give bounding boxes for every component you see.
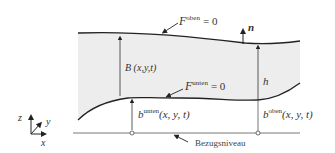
- axis-x-label: x: [40, 137, 46, 148]
- axis-y-label: y: [45, 116, 51, 127]
- label-h: h: [263, 75, 269, 87]
- coordinate-axes-icon: z y x: [17, 112, 51, 148]
- label-reference-level: Bezugsniveau: [195, 138, 246, 148]
- reference-leader: [176, 136, 188, 142]
- origin-point-left: [130, 131, 134, 135]
- label-normal-n: n: [248, 21, 254, 33]
- label-b-oben: boben(x, y, t): [263, 107, 313, 121]
- ice-sheet-diagram: Foben= 0 n B (x,y,t) h Funten= 0 bunten(…: [0, 0, 335, 153]
- label-b-unten: bunten(x, y, t): [138, 107, 190, 121]
- label-thickness-b: B (x,y,t): [125, 62, 157, 74]
- label-f-oben: Foben= 0: [178, 14, 218, 28]
- axis-z-label: z: [17, 112, 22, 123]
- upper-surface-leader: [164, 23, 178, 32]
- origin-point-right: [256, 131, 260, 135]
